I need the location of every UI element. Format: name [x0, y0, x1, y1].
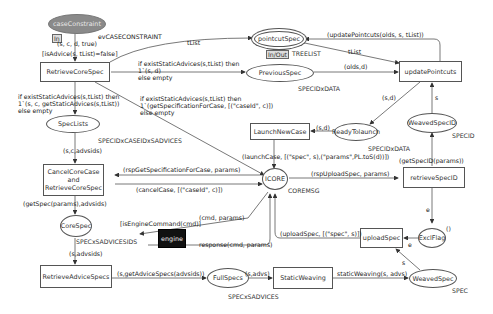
port-tag-in-out: In/Out	[266, 50, 289, 59]
petri-net-diagram: caseConstraint In pointcutSpec In/Out TR…	[0, 0, 493, 314]
place-type-full-specs: SPECxSADVICES	[228, 293, 279, 300]
place-type-treelist: TREELIST	[292, 50, 321, 57]
arc-guard-retrieve: [isAdvice(s, tList)=false]	[42, 50, 118, 57]
arc-label-icore-b: 1`(getSpecificationForCase, [("caseId", …	[140, 102, 273, 109]
transition-upload-spec[interactable]: uploadSpec	[360, 228, 403, 248]
arc-label-olds-d: (olds,d)	[344, 63, 367, 70]
arc-label-get-advice: (s,getAdviceSpecs(advsids))	[117, 270, 204, 277]
arc-label-response: response(cmd, params)	[199, 241, 273, 248]
arc-label-ev-case: evCASECONSTRAINT	[98, 33, 162, 40]
arc-label-s-d-ready: (s,d)	[382, 94, 396, 101]
arc-label-tlist-top: tList	[187, 39, 200, 46]
place-spec-lists[interactable]: SpecLists	[46, 115, 100, 133]
place-type-weaved-spec: SPEC	[452, 287, 468, 294]
place-type-spec-lists: SPECIDxCASEIDxSADVICES	[98, 137, 182, 144]
arc-label-s-d-launch: (s,d)	[316, 124, 330, 131]
arc-label-prev-c: else empty	[138, 74, 172, 81]
transition-engine[interactable]: engine	[158, 229, 186, 248]
arc-label-rsp-upload: (rspUploadSpec, params)	[311, 170, 390, 177]
arc-label-s-advsids: (s,advsids)	[69, 250, 103, 257]
arc-label-cmd-params: (cmd, params)	[199, 214, 244, 221]
place-type-weaved-spec-id: SPECID	[452, 132, 474, 139]
place-full-specs[interactable]: FullSpecs	[207, 268, 249, 288]
arc-guard-is-engine: [isEngineCommand(cmd)]	[120, 220, 201, 227]
place-ready-to-launch[interactable]: ReadyTolaunch	[334, 123, 378, 141]
arc-label-s-up: s	[435, 94, 438, 101]
arc-label-get-spec: (getSpec(params),advsids)	[23, 200, 107, 207]
transition-static-weaving[interactable]: StaticWeaving	[273, 267, 333, 289]
place-initial-marking-excl-flag: ()	[446, 225, 451, 232]
transition-retrieve-advice-specs[interactable]: RetrieveAdviceSpecs	[40, 265, 112, 288]
place-excl-flag[interactable]: ExclFlag	[418, 228, 446, 248]
arc-label-cancel-case: (cancelCase, [("caseId", c)])	[136, 186, 223, 193]
transition-update-pointcuts[interactable]: updatePointcuts	[399, 61, 462, 82]
arc-label-prev-a: if existStaticAdvices(s,tList) then	[138, 60, 239, 67]
transition-launch-new-case[interactable]: LaunchNewCase	[250, 123, 310, 140]
transition-retrieve-spec-id[interactable]: retrieveSpecID	[403, 167, 465, 188]
arc-label-speclists-c: else empty	[18, 107, 52, 114]
arc-label-get-spec-id: (getSpecID(params))	[399, 157, 464, 164]
place-case-constraint[interactable]: caseConstraint	[48, 14, 106, 34]
arc-label-update-back: (updatePointcuts(olds, s, tList))	[327, 31, 424, 38]
arc-label-e-left: e	[408, 241, 412, 248]
transition-retrieve-core-spec[interactable]: RetrieveCoreSpec	[40, 62, 110, 82]
place-previous-spec[interactable]: PreviousSpec	[246, 64, 314, 82]
arc-label-icore-c: else empty	[140, 109, 174, 116]
arc-label-s-c-advsids: (s,c,advsids)	[63, 147, 102, 154]
arc-label-static-weaving: staticWeaving(s, advs)	[337, 270, 407, 277]
arc-label-speclists-b: 1`(s, c, getStaticAdvices(s,tList))	[18, 100, 119, 107]
arc-label-speclists-a: if existStaticAdvices(s,tList) then	[18, 93, 119, 100]
place-weaved-spec[interactable]: WeavedSpec	[409, 269, 457, 288]
arc-label-launch-case: (launchCase, [("spec", s),("params",PL.t…	[242, 153, 389, 160]
arc-label-s-advs: (s,advs)	[245, 270, 270, 277]
arc-label-case-to-retrieve: (s, c, d, true)	[57, 40, 97, 47]
arc-label-rsp-get: (rspGetSpecificationForCase, params)	[123, 166, 240, 173]
place-icore[interactable]: ICORE	[262, 168, 288, 190]
arc-label-s-diag: s	[402, 259, 405, 266]
arc-label-tlist-right: tList	[348, 48, 361, 55]
place-weaved-spec-id[interactable]: WeavedSpecID	[407, 113, 457, 133]
place-core-spec[interactable]: CoreSpec	[60, 215, 92, 237]
arc-label-e-down: e	[426, 206, 430, 213]
arc-label-icore-a: if existStaticAdvices(s,tList) then	[140, 95, 241, 102]
place-type-icore: COREMSG	[288, 187, 319, 194]
arc-label-prev-b: 1`(s, d)	[138, 67, 161, 74]
arc-label-upload-spec: (uploadSpec, [("spec", s)])	[280, 230, 362, 237]
place-pointcut-spec[interactable]: pointcutSpec	[254, 31, 304, 47]
place-type-previous-spec: SPECIDxDATA	[298, 85, 340, 92]
place-type-core-spec: SPECxSADVICESIDS	[76, 238, 137, 245]
transition-cancel-core-case[interactable]: CancelCoreCase and RetrieveCoreSpec	[43, 164, 104, 196]
place-type-ready-to-launch: SPECIDxDATA	[368, 145, 410, 152]
